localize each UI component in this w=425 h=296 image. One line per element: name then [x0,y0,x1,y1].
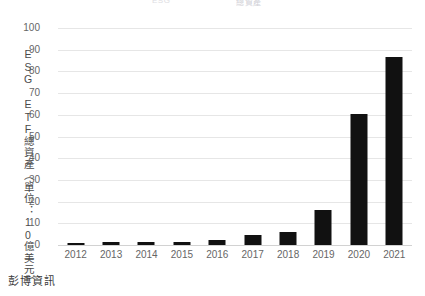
bar [138,242,155,245]
x-axis-tick-label: 2021 [383,249,405,260]
bar [244,235,261,245]
y-axis-tick-label: 100 [0,22,40,33]
bar [67,243,84,245]
bar-column [341,28,376,245]
y-axis-tick-label: 0 [0,239,40,250]
bar [173,242,190,245]
axis-baseline [58,245,412,246]
y-axis-tick-label: 10 [0,217,40,228]
bar-chart: ESG ETF總資產（單位：10億美元） 1009080706050403020… [0,0,425,296]
bar [280,232,297,245]
bar-column [58,28,93,245]
y-axis-tick-label: 90 [0,44,40,55]
x-axis-tick-label: 2016 [206,249,228,260]
x-axis-tick-label: 2020 [348,249,370,260]
y-axis-tick-label: 70 [0,87,40,98]
y-axis-tick-label: 50 [0,131,40,142]
bar [386,57,403,245]
x-axis-tick-label: 2013 [100,249,122,260]
bar-column [164,28,199,245]
x-axis-labels: 2012201320142015201620172018201920202021 [58,249,412,265]
y-axis-tick-label: 30 [0,174,40,185]
bar-column [306,28,341,245]
bar [103,242,120,245]
x-axis-tick-label: 2018 [277,249,299,260]
bar-series [58,28,412,245]
y-axis-tick-label: 20 [0,196,40,207]
source-note: 彭博資訊 [8,272,56,288]
bar-column [377,28,412,245]
x-axis-tick-label: 2019 [312,249,334,260]
bar-column [200,28,235,245]
x-axis-tick-label: 2012 [65,249,87,260]
bar [315,210,332,245]
y-axis-tick-label: 80 [0,65,40,76]
bar-column [93,28,128,245]
bar-column [235,28,270,245]
y-axis-tick-label: 40 [0,152,40,163]
x-axis-tick-label: 2017 [242,249,264,260]
x-axis-tick-label: 2015 [171,249,193,260]
bar [209,240,226,245]
y-axis-tick-label: 60 [0,109,40,120]
bar [350,114,367,245]
bar-column [270,28,305,245]
x-axis-tick-label: 2014 [135,249,157,260]
bar-column [129,28,164,245]
